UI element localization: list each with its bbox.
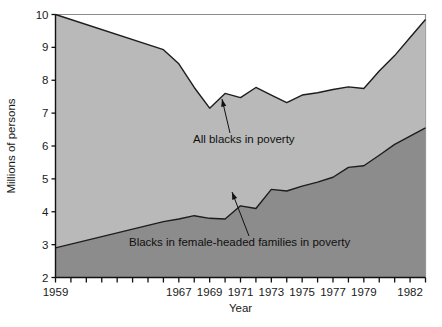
y-tick-label: 10 [36, 9, 49, 21]
x-tick-label: 1969 [197, 286, 223, 298]
y-tick-label: 2 [42, 272, 48, 284]
x-tick-label: 1959 [43, 286, 69, 298]
x-tick-label: 1973 [259, 286, 285, 298]
x-tick-label: 1979 [351, 286, 377, 298]
x-tick-label: 1975 [289, 286, 315, 298]
x-tick-label: 1967 [166, 286, 192, 298]
annotation-label: Blacks in female-headed families in pove… [129, 236, 350, 248]
x-tick-label: 1977 [320, 286, 346, 298]
y-tick-label: 3 [42, 239, 48, 251]
y-tick-label: 8 [42, 74, 48, 86]
x-axis-title: Year [229, 302, 252, 314]
annotation-label: All blacks in poverty [193, 133, 295, 145]
y-axis-title: Millions of persons [5, 98, 17, 193]
x-tick-label: 1971 [228, 286, 254, 298]
y-tick-label: 6 [42, 140, 48, 152]
x-tick-label: 1982 [397, 286, 423, 298]
y-tick-label: 4 [42, 206, 49, 218]
chart-canvas: 2345678910195919671969197119731975197719… [0, 0, 442, 327]
y-tick-label: 7 [42, 107, 48, 119]
y-tick-label: 9 [42, 41, 48, 53]
poverty-area-chart: 2345678910195919671969197119731975197719… [0, 0, 442, 327]
y-tick-label: 5 [42, 173, 48, 185]
